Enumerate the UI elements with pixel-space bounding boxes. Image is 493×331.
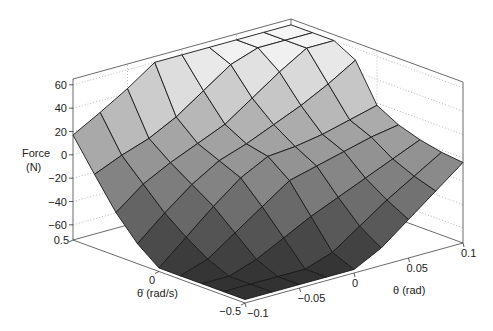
surface-plot: 6040200−20−40−60−0.1−0.0500.050.1−0.500.… [0, 0, 493, 331]
z-tick-label: −20 [48, 172, 67, 184]
y-tick [69, 240, 73, 242]
z-tick-label: −60 [48, 219, 67, 231]
y-axis-label: θ̇ (rad/s) [137, 287, 178, 299]
z-axis-label-line1: Force [22, 147, 50, 159]
y-tick-label: 0.5 [54, 234, 69, 246]
y-tick-label: 0 [149, 274, 155, 286]
z-tick-label: 60 [55, 79, 67, 91]
z-tick-label: −40 [48, 196, 67, 208]
y-tick [155, 272, 159, 274]
y-tick-label: −0.5 [219, 305, 241, 317]
y-tick [241, 303, 245, 305]
x-tick-label: 0 [352, 277, 358, 289]
x-tick [245, 303, 246, 307]
x-tick-label: −0.05 [298, 292, 326, 304]
x-tick-label: 0.05 [407, 262, 428, 274]
force-surface [73, 25, 463, 300]
z-tick-label: 20 [55, 126, 67, 138]
x-axis-label: θ (rad) [393, 284, 425, 296]
x-tick-label: 0.1 [461, 247, 476, 259]
x-tick-label: −0.1 [247, 307, 269, 319]
z-axis-label-line2: (N) [26, 161, 41, 173]
z-tick-label: 40 [55, 102, 67, 114]
z-tick-label: 0 [61, 149, 67, 161]
